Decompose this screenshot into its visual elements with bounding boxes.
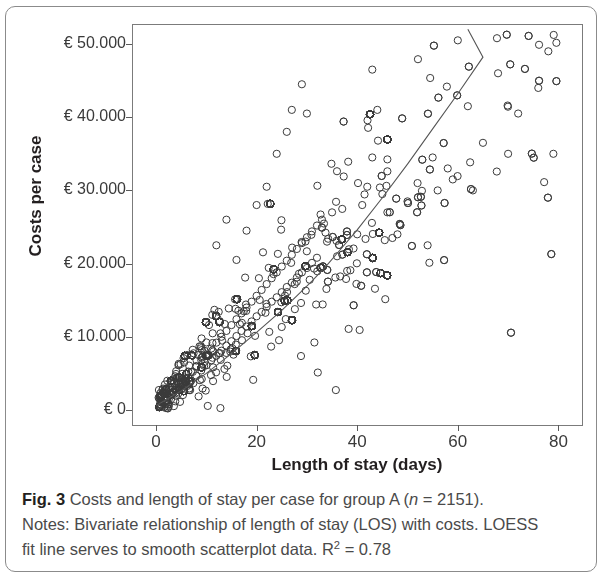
scatter-chart: Costs per case Length of stay (days) € 0… [0, 0, 601, 470]
x-tick-label: 60 [428, 432, 488, 452]
x-tick-label: 0 [126, 432, 186, 452]
figure-number: Fig. 3 [22, 490, 65, 508]
x-tick-label: 40 [327, 432, 387, 452]
figure-root: Costs per case Length of stay (days) € 0… [0, 0, 601, 584]
caption-notes-line2a: fit line serves to smooth scatterplot da… [22, 540, 334, 558]
caption-description: Costs and length of stay per case for gr… [70, 490, 409, 508]
x-tick-label: 20 [227, 432, 287, 452]
caption-n-value: = 2151). [418, 490, 484, 508]
r-squared-value: = 0.78 [340, 540, 391, 558]
y-tick-label: € 30.000 [18, 180, 126, 198]
caption-n-symbol: n [409, 490, 418, 508]
figure-caption: Fig. 3 Costs and length of stay per case… [22, 487, 582, 562]
y-tick-label: € 40.000 [18, 107, 126, 125]
caption-notes-line1: Notes: Bivariate relationship of length … [22, 515, 538, 533]
x-axis-title: Length of stay (days) [132, 455, 582, 475]
y-tick-label: € 10.000 [18, 327, 126, 345]
y-tick-label: € 20.000 [18, 254, 126, 272]
y-tick-label: € 0 [18, 400, 126, 418]
x-tick-label: 80 [528, 432, 588, 452]
y-tick-label: € 50.000 [18, 34, 126, 52]
